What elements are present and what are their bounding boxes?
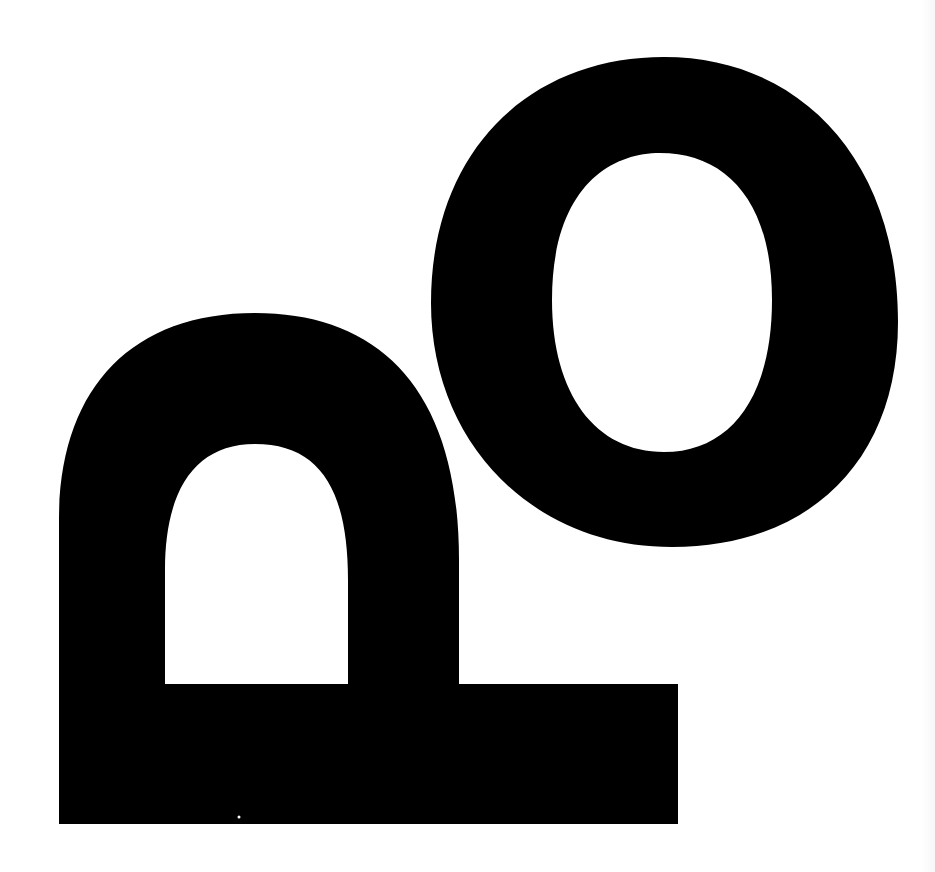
logo-mark — [0, 0, 935, 872]
page-edge — [921, 0, 935, 872]
arch-glyph-icon — [59, 313, 678, 824]
o-glyph-icon — [431, 57, 898, 547]
logo-canvas: pO — [0, 0, 935, 872]
speck-dot — [238, 816, 241, 819]
